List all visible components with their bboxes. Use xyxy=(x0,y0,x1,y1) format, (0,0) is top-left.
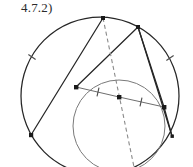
side-upperright-chordright-segment xyxy=(138,27,164,107)
chord-midpoint-point xyxy=(117,95,121,99)
geometry-figure: 4.7.2) xyxy=(0,0,193,167)
side-upperright-left-segment xyxy=(76,27,138,87)
circles-group xyxy=(21,17,179,167)
lower-left-vertex-point xyxy=(29,133,33,137)
chord-left-vertex-point xyxy=(74,85,78,89)
cevian-dashed-group xyxy=(103,18,134,167)
cevian-dashed-line xyxy=(103,18,134,167)
chord-right-vertex-point xyxy=(162,105,166,109)
side-topvertex-left-segment xyxy=(31,18,103,135)
upper-right-vertex-point xyxy=(136,25,140,29)
circumcircle xyxy=(21,17,179,167)
geometry-canvas xyxy=(0,0,193,167)
lower-right-vertex-point xyxy=(171,135,174,138)
top-vertex-point xyxy=(101,16,105,20)
inner-circle xyxy=(73,80,165,167)
